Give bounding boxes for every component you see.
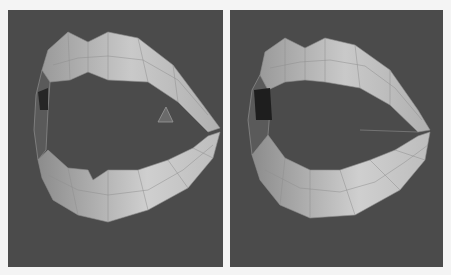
viewport-left [8,10,223,267]
viewport-right [230,10,443,267]
lip-mesh-right [230,10,443,267]
lip-mesh-left [8,10,223,267]
